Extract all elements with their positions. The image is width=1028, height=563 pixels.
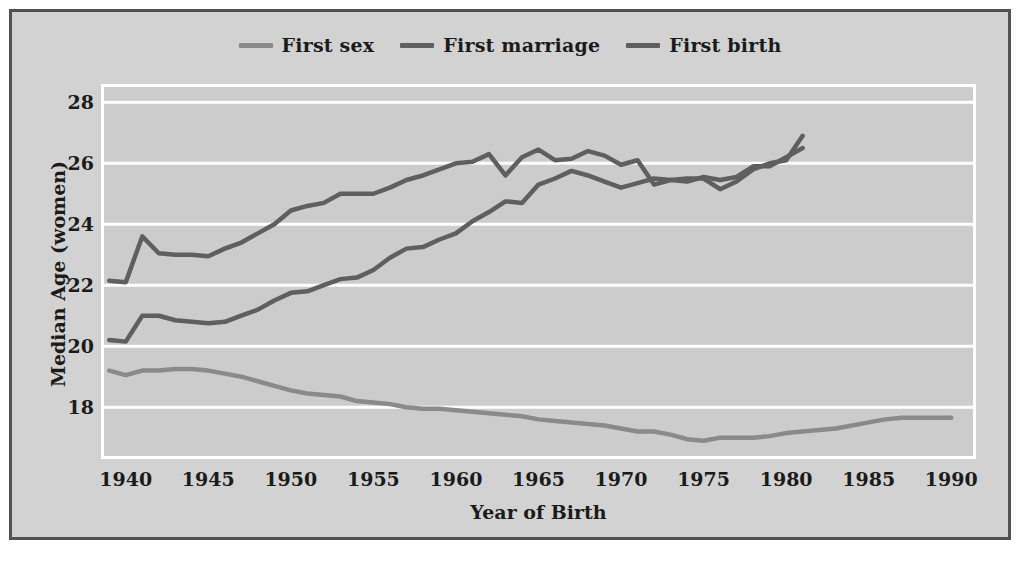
legend-item-first-birth: First birth bbox=[626, 34, 781, 56]
legend-label-first-sex: First sex bbox=[282, 34, 375, 56]
x-tick-label: 1955 bbox=[347, 468, 400, 490]
x-tick-label: 1980 bbox=[760, 468, 813, 490]
plot-frame bbox=[101, 84, 976, 459]
x-tick-label: 1985 bbox=[842, 468, 895, 490]
y-tick-label: 18 bbox=[48, 396, 94, 418]
x-axis-tick-labels: 1940194519501955196019651970197519801985… bbox=[101, 468, 976, 494]
x-tick-label: 1945 bbox=[182, 468, 235, 490]
legend-swatch-first-sex bbox=[239, 43, 273, 48]
x-tick-label: 1960 bbox=[429, 468, 482, 490]
plot-area bbox=[101, 84, 976, 459]
x-axis-title: Year of Birth bbox=[101, 501, 976, 523]
legend-label-first-birth: First birth bbox=[669, 34, 781, 56]
legend-swatch-first-birth bbox=[626, 43, 660, 48]
y-tick-label: 20 bbox=[48, 335, 94, 357]
y-axis-tick-labels: 182022242628 bbox=[32, 84, 94, 459]
y-tick-label: 24 bbox=[48, 213, 94, 235]
y-tick-label: 28 bbox=[48, 91, 94, 113]
y-tick-label: 26 bbox=[48, 152, 94, 174]
chart-figure: First sex First marriage First birth Med… bbox=[9, 9, 1011, 540]
x-tick-label: 1970 bbox=[595, 468, 648, 490]
x-tick-label: 1975 bbox=[677, 468, 730, 490]
x-tick-label: 1940 bbox=[99, 468, 152, 490]
legend-item-first-marriage: First marriage bbox=[400, 34, 600, 56]
x-tick-label: 1965 bbox=[512, 468, 565, 490]
x-tick-label: 1950 bbox=[264, 468, 317, 490]
chart-legend: First sex First marriage First birth bbox=[12, 34, 1008, 56]
y-tick-label: 22 bbox=[48, 274, 94, 296]
legend-label-first-marriage: First marriage bbox=[443, 34, 600, 56]
legend-item-first-sex: First sex bbox=[239, 34, 375, 56]
x-tick-label: 1990 bbox=[925, 468, 978, 490]
legend-swatch-first-marriage bbox=[400, 43, 434, 48]
